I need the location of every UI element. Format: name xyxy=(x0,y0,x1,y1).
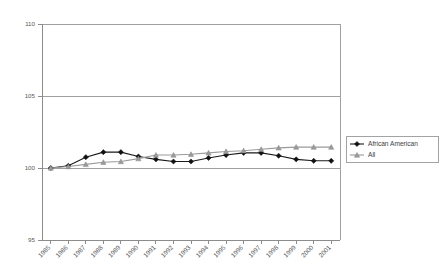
chart-container: 11010510095 1985198619871988198919901991… xyxy=(0,0,443,274)
gridlines-group xyxy=(42,24,340,240)
y-axis-label-105: 105 xyxy=(25,92,36,99)
x-axis-label-1993: 1993 xyxy=(177,243,192,258)
data-point-1993 xyxy=(188,159,193,164)
x-axis-label-1986: 1986 xyxy=(54,243,69,258)
y-axis-label-95: 95 xyxy=(28,236,35,243)
data-point-1991 xyxy=(153,157,158,162)
series-all xyxy=(48,145,334,171)
x-axis-label-1991: 1991 xyxy=(142,243,157,258)
y-axis-label-100: 100 xyxy=(25,164,36,171)
data-point-1989 xyxy=(118,150,123,155)
x-axis-label-1998: 1998 xyxy=(264,243,279,258)
x-axis-label-1992: 1992 xyxy=(159,243,174,258)
line-chart: 11010510095 1985198619871988198919901991… xyxy=(0,0,443,274)
x-axis-labels-group: 1985198619871988198919901991199219931994… xyxy=(36,243,332,258)
data-point-2000 xyxy=(311,158,316,163)
x-axis-label-1994: 1994 xyxy=(194,243,209,258)
legend-label: All xyxy=(368,151,376,158)
legend-label: African American xyxy=(368,140,418,147)
x-axis-label-1989: 1989 xyxy=(107,243,122,258)
x-axis-label-2001: 2001 xyxy=(317,243,332,258)
x-axis-label-1988: 1988 xyxy=(89,243,104,258)
chart-legend: African AmericanAll xyxy=(346,136,438,162)
data-point-1994 xyxy=(206,155,211,160)
data-point-1999 xyxy=(294,157,299,162)
x-axis-label-1996: 1996 xyxy=(229,243,244,258)
tick-marks-group xyxy=(38,24,331,244)
data-series-group xyxy=(48,145,334,171)
data-point-1987 xyxy=(83,155,88,160)
x-axis-label-1997: 1997 xyxy=(247,243,262,258)
x-axis-label-1995: 1995 xyxy=(212,243,227,258)
x-axis-label-1990: 1990 xyxy=(124,243,139,258)
y-axis-label-110: 110 xyxy=(25,20,35,27)
x-axis-label-1999: 1999 xyxy=(282,243,297,258)
data-point-1988 xyxy=(101,150,106,155)
data-point-1992 xyxy=(171,159,176,164)
x-axis-label-2000: 2000 xyxy=(299,243,314,258)
data-point-2001 xyxy=(329,158,334,163)
y-axis-labels-group: 11010510095 xyxy=(25,20,36,243)
data-point-1998 xyxy=(276,153,281,158)
x-axis-label-1985: 1985 xyxy=(36,243,51,258)
x-axis-label-1987: 1987 xyxy=(72,243,87,258)
